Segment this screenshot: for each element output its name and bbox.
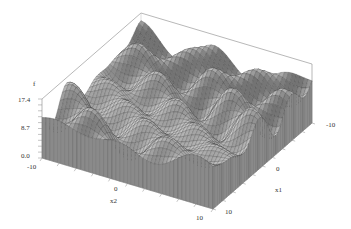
x2-tick-mid: 0 bbox=[114, 186, 118, 193]
surface-mesh bbox=[42, 21, 312, 209]
x1-tick-mid: 0 bbox=[276, 166, 280, 173]
x1-tick-min: -10 bbox=[326, 122, 335, 129]
z-tick-top: 17.4 bbox=[18, 97, 30, 104]
x2-tick-min: -10 bbox=[27, 164, 36, 171]
z-tick-bottom: 0.0 bbox=[21, 153, 30, 160]
z-tick-mid: 8.7 bbox=[21, 125, 30, 132]
z-axis-title: f bbox=[33, 81, 35, 88]
x1-axis-title: x1 bbox=[275, 187, 282, 194]
surface-plot bbox=[0, 0, 351, 229]
x1-tick-max: 10 bbox=[225, 209, 232, 216]
x2-axis-title: x2 bbox=[110, 198, 117, 205]
x2-tick-max: 10 bbox=[196, 215, 203, 222]
